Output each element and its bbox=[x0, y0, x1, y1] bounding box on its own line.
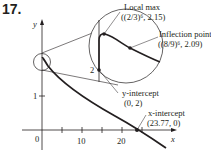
y-axis-arrow-icon bbox=[40, 19, 44, 25]
x-intercept-title: x-intercept bbox=[148, 109, 185, 118]
inflection-coords: ((8/9)⁶, 2.09) bbox=[158, 40, 202, 49]
inflection-title: Inflection point bbox=[159, 30, 211, 39]
x-axis-arrow-icon bbox=[171, 128, 177, 132]
x-intercept-coords: (23.77, 0) bbox=[147, 119, 180, 128]
x-tick-10: 10 bbox=[77, 137, 86, 146]
local-max-title: Local max bbox=[124, 3, 160, 12]
x-tick-20: 20 bbox=[117, 137, 126, 146]
y-intercept-coords: (0, 2) bbox=[124, 99, 142, 108]
x-axis-label: x bbox=[171, 135, 175, 144]
y-intercept-title: y-intercept bbox=[122, 89, 159, 98]
inset-tick-2: 2 bbox=[90, 66, 94, 75]
origin-label: 0 bbox=[35, 135, 39, 144]
y-axis-label: y bbox=[33, 20, 37, 29]
y-tick-1: 1 bbox=[33, 92, 37, 101]
graph bbox=[0, 0, 211, 154]
local-max-coords: ((2/3)⁶, 2.15) bbox=[121, 13, 165, 22]
